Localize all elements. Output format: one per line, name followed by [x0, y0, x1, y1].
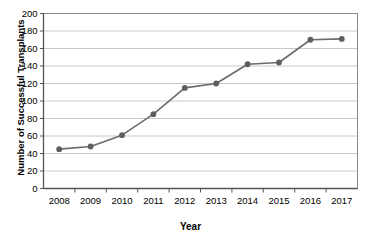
x-tick-label: 2012 [174, 195, 195, 206]
y-tick-label: 0 [32, 183, 37, 194]
data-point [151, 111, 157, 117]
x-axis-title: Year [0, 221, 381, 232]
x-tick-label: 2010 [111, 195, 132, 206]
y-axis-ticks: 020406080100120140160180200 [22, 8, 44, 194]
x-tick-label: 2009 [80, 195, 101, 206]
data-point [213, 81, 219, 87]
x-tick-label: 2015 [268, 195, 289, 206]
y-tick-label: 180 [22, 25, 38, 36]
data-point [276, 60, 282, 66]
data-point [339, 36, 345, 42]
x-axis-ticks: 2008200920102011201220132014201520162017 [49, 189, 353, 206]
data-point [56, 146, 62, 152]
x-tick-label: 2011 [143, 195, 163, 206]
line-chart: Number of Successful Transplants 0204060… [0, 0, 381, 241]
x-tick-label: 2008 [49, 195, 70, 206]
data-point [88, 144, 94, 150]
data-point [119, 132, 125, 138]
y-tick-label: 80 [27, 113, 38, 124]
chart-plot-area: 020406080100120140160180200 200820092010… [0, 0, 381, 241]
y-tick-label: 200 [22, 8, 38, 19]
y-tick-label: 100 [22, 95, 38, 106]
x-tick-label: 2016 [300, 195, 321, 206]
y-tick-label: 160 [22, 43, 38, 54]
y-tick-label: 140 [22, 60, 38, 71]
x-tick-label: 2014 [237, 195, 258, 206]
y-tick-label: 120 [22, 78, 38, 89]
y-tick-label: 20 [27, 165, 38, 176]
x-tick-label: 2017 [331, 195, 352, 206]
y-tick-label: 60 [27, 130, 38, 141]
y-tick-label: 40 [27, 148, 38, 159]
data-point [182, 85, 188, 91]
data-point [308, 37, 314, 43]
data-point [245, 61, 251, 67]
x-tick-label: 2013 [206, 195, 227, 206]
